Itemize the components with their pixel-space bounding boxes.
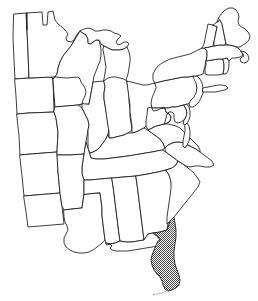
long-island[interactable]: [203, 85, 228, 92]
state-ia[interactable]: [53, 77, 86, 107]
state-mo[interactable]: [54, 105, 89, 155]
state-sc[interactable]: [166, 161, 200, 224]
state-ar[interactable]: [57, 154, 84, 210]
us-eastern-states-map[interactable]: [0, 0, 258, 301]
state-ks[interactable]: [20, 152, 60, 196]
state-ct[interactable]: [205, 59, 224, 75]
state-ok-edge[interactable]: [24, 193, 64, 227]
map-figure: [0, 0, 258, 301]
state-ne[interactable]: [17, 112, 58, 155]
florida-keys[interactable]: [152, 291, 166, 295]
state-sd[interactable]: [15, 77, 54, 114]
